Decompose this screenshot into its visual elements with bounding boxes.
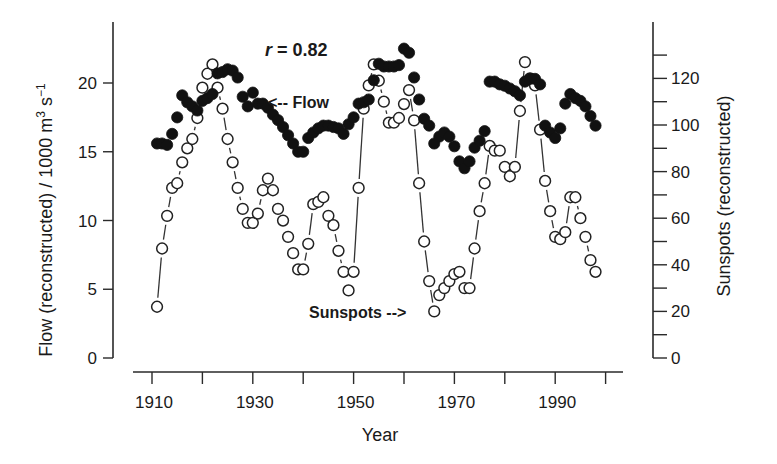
sunspots-annotation: Sunspots --> xyxy=(309,304,406,321)
sunspot-point xyxy=(494,145,505,156)
connector-segment xyxy=(305,253,307,261)
flow-point xyxy=(167,128,178,139)
connector-segment xyxy=(335,234,337,242)
x-axis-tick-label: 1910 xyxy=(135,393,173,412)
sunspot-point xyxy=(172,178,183,189)
connector-segment xyxy=(425,250,428,272)
connector-segment xyxy=(179,171,180,174)
sunspot-point xyxy=(283,231,294,242)
flow-point xyxy=(298,146,309,157)
sunspot-point xyxy=(353,183,364,194)
connector-segment xyxy=(359,118,363,179)
sunspot-point xyxy=(257,185,268,196)
sunspot-point xyxy=(424,276,435,287)
flow-point xyxy=(590,120,601,131)
right-axis-tick-label: 40 xyxy=(671,256,690,275)
connector-segment xyxy=(163,225,165,240)
x-axis-tick-label: 1970 xyxy=(437,393,475,412)
sunspot-point xyxy=(454,266,465,277)
sunspot-point xyxy=(157,243,168,254)
sunspot-point xyxy=(464,283,475,294)
sunspot-point xyxy=(298,264,309,275)
left-axis-tick-label: 20 xyxy=(78,74,97,93)
x-axis-title: Year xyxy=(362,425,398,445)
x-axis: 19101930195019701990 xyxy=(133,372,623,412)
connector-segment xyxy=(341,260,342,263)
sunspot-point xyxy=(545,206,556,217)
flow-point xyxy=(247,87,258,98)
flow-point xyxy=(534,79,545,90)
left-axis-tick-label: 15 xyxy=(78,143,97,162)
connector-segment xyxy=(381,89,382,92)
sunspot-point xyxy=(343,285,354,296)
right-axis-tick-label: 0 xyxy=(671,349,680,368)
flow-annotation: <-- Flow xyxy=(268,94,329,111)
sunspot-point xyxy=(338,266,349,277)
connector-segment xyxy=(158,257,161,297)
sunspot-point xyxy=(162,210,173,221)
flow-point xyxy=(479,126,490,137)
left-axis-tick-label: 0 xyxy=(88,349,97,368)
sunspot-point xyxy=(394,113,405,124)
sunspot-point xyxy=(273,203,284,214)
left-axis-tick-label: 5 xyxy=(88,280,97,299)
flow-sunspot-chart: 05101520 020406080100120 191019301950197… xyxy=(0,0,777,464)
sunspot-point xyxy=(520,57,531,68)
flow-point xyxy=(424,120,435,131)
connector-segment xyxy=(541,139,544,172)
connector-segment xyxy=(516,120,519,158)
sunspot-point xyxy=(575,213,586,224)
sunspot-point xyxy=(378,96,389,107)
flow-point xyxy=(348,112,359,123)
sunspot-point xyxy=(288,248,299,259)
right-axis-tick-label: 20 xyxy=(671,302,690,321)
sunspots-series xyxy=(152,57,601,317)
x-axis-tick-label: 1930 xyxy=(236,393,274,412)
correlation-label: r = 0.82 xyxy=(265,40,328,60)
sunspot-point xyxy=(399,99,410,110)
right-axis-tick-label: 120 xyxy=(671,69,699,88)
sunspot-point xyxy=(419,236,430,247)
flow-point xyxy=(464,156,475,167)
sunspot-point xyxy=(414,178,425,189)
sunspot-point xyxy=(278,215,289,226)
connector-segment xyxy=(220,96,221,99)
connector-segment xyxy=(230,148,231,154)
sunspot-point xyxy=(303,238,314,249)
flow-point xyxy=(403,47,414,58)
connector-segment xyxy=(260,199,261,205)
sunspot-point xyxy=(585,255,596,266)
connector-segment xyxy=(587,246,588,252)
flow-point xyxy=(242,101,253,112)
sunspot-point xyxy=(409,115,420,126)
flow-point xyxy=(393,60,404,71)
sunspot-point xyxy=(268,185,279,196)
connector-segment xyxy=(567,206,569,223)
sunspot-point xyxy=(318,192,329,203)
sunspot-point xyxy=(197,82,208,93)
sunspot-point xyxy=(227,157,238,168)
sunspot-point xyxy=(570,192,581,203)
connector-segment xyxy=(420,192,423,232)
sunspot-point xyxy=(232,183,243,194)
connector-segment xyxy=(354,197,358,263)
flow-point xyxy=(555,123,566,134)
connector-segment xyxy=(476,220,479,239)
sunspot-point xyxy=(328,220,339,231)
flow-point xyxy=(162,139,173,150)
right-axis-tick-label: 80 xyxy=(671,163,690,182)
left-y-axis: 05101520 xyxy=(78,22,113,368)
sunspot-point xyxy=(237,203,248,214)
connector-segment xyxy=(194,127,195,130)
connector-segment xyxy=(415,129,419,174)
flow-point xyxy=(172,112,183,123)
sunspot-point xyxy=(515,106,526,117)
sunspot-point xyxy=(187,134,198,145)
right-axis-tick-label: 60 xyxy=(671,209,690,228)
connector-segment xyxy=(309,213,312,235)
connector-segment xyxy=(240,197,241,200)
connector-segment xyxy=(481,192,483,202)
sunspot-point xyxy=(580,231,591,242)
flow-point xyxy=(449,141,460,152)
right-axis-title: Sunspots (reconstructed) xyxy=(714,95,734,296)
